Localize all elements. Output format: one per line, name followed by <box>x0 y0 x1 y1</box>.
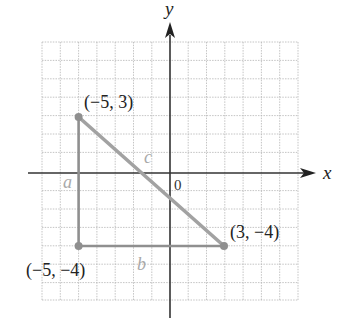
origin-label: 0 <box>174 177 182 193</box>
x-axis-label: x <box>322 162 332 183</box>
coordinate-plane-figure: x y 0 (−5, 3) (−5, −4) (3, −4) a b c <box>0 0 351 319</box>
vertex-point <box>75 113 83 121</box>
side-label-a: a <box>63 172 72 192</box>
vertex-point <box>220 242 228 250</box>
side-c <box>79 117 224 246</box>
vertex-point <box>75 242 83 250</box>
point-label: (3, −4) <box>230 222 279 243</box>
triangle <box>79 117 224 246</box>
side-label-b: b <box>137 254 146 274</box>
y-axis-label: y <box>163 0 174 19</box>
side-label-c: c <box>144 147 152 167</box>
point-label: (−5, −4) <box>26 260 85 281</box>
point-label: (−5, 3) <box>84 92 133 113</box>
